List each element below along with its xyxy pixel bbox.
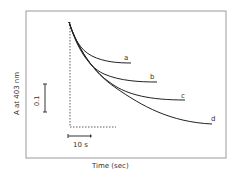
y-scale-label: 0.1	[33, 96, 41, 106]
label-b: b	[150, 73, 155, 81]
label-a: a	[124, 54, 128, 62]
x-scale-label: 10 s	[73, 141, 88, 149]
curve-a	[69, 22, 131, 63]
dashed-baseline	[70, 22, 116, 127]
y-axis-title: A at 403 nm	[13, 72, 21, 115]
curve-d	[69, 22, 212, 124]
kinetics-chart: a b c d 0.1 10 s Time (sec) A at 403 nm	[0, 0, 238, 177]
label-d: d	[211, 115, 215, 123]
plot-frame	[26, 11, 226, 158]
x-scale-arrow-icon	[90, 134, 92, 138]
label-c: c	[181, 92, 185, 100]
x-axis-title: Time (sec)	[91, 162, 129, 170]
